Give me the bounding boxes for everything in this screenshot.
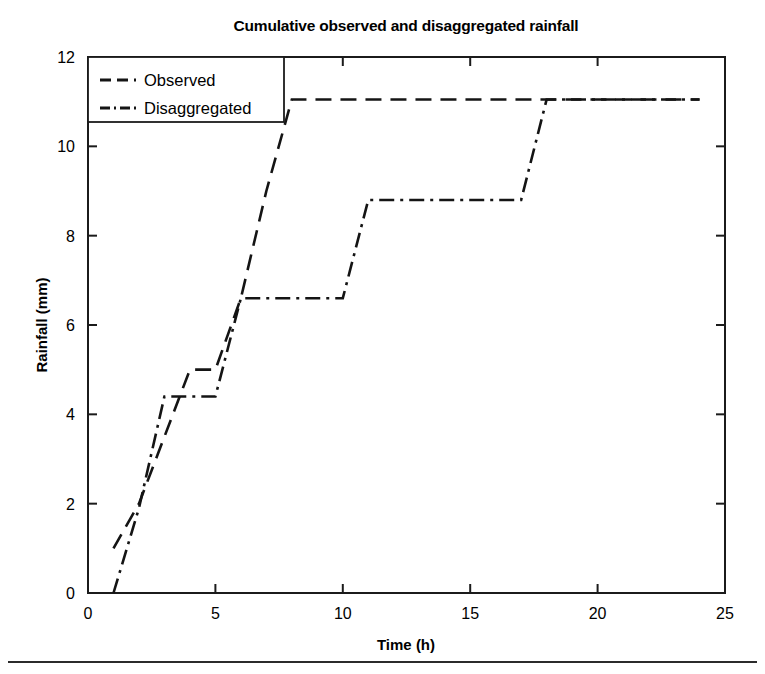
- y-tick-label: 2: [66, 496, 75, 513]
- y-axis-title: Rainfall (mm): [33, 277, 50, 372]
- y-tick-label: 0: [66, 585, 75, 602]
- x-tick-label: 25: [716, 605, 734, 622]
- x-axis-title: Time (h): [377, 636, 435, 653]
- chart-title: Cumulative observed and disaggregated ra…: [234, 17, 579, 34]
- y-tick-label: 8: [66, 228, 75, 245]
- chart-legend: ObservedDisaggregated: [88, 57, 284, 122]
- x-tick-label: 15: [461, 605, 479, 622]
- rainfall-chart-figure: Cumulative observed and disaggregated ra…: [0, 0, 765, 674]
- y-tick-label: 4: [66, 406, 75, 423]
- x-tick-label: 5: [211, 605, 220, 622]
- x-tick-label: 10: [334, 605, 352, 622]
- y-tick-label: 12: [57, 49, 75, 66]
- x-tick-label: 0: [84, 605, 93, 622]
- y-tick-label: 10: [57, 138, 75, 155]
- legend-label-disaggregated: Disaggregated: [144, 99, 251, 117]
- y-tick-label: 6: [66, 317, 75, 334]
- legend-label-observed: Observed: [144, 71, 216, 89]
- x-tick-label: 20: [589, 605, 607, 622]
